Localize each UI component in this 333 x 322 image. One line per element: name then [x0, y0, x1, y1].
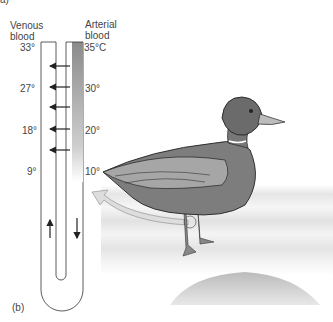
- inner-tube: [56, 42, 66, 280]
- heat-transfer-arrows: [50, 66, 70, 150]
- arterial-gradient: [72, 42, 83, 182]
- panel-label: (b): [12, 302, 24, 313]
- countercurrent-diagram: [0, 0, 333, 322]
- rock: [170, 272, 320, 305]
